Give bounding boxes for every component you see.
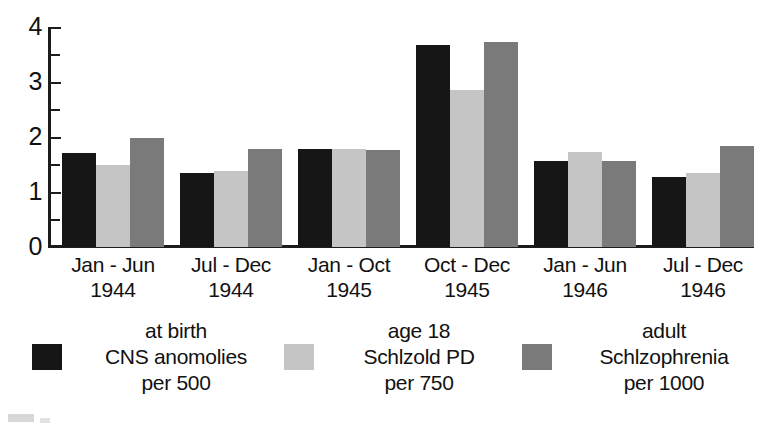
legend-line-3: per 500 — [76, 370, 276, 396]
legend-line-2: CNS anomolies — [76, 344, 276, 370]
bar — [720, 146, 754, 247]
bar — [416, 45, 450, 247]
scan-artifact — [8, 414, 34, 422]
bar — [534, 161, 568, 247]
legend-entry-label: at birth CNS anomolies per 500 — [76, 318, 276, 396]
x-axis-category-label: Jul - Dec1946 — [634, 252, 762, 302]
bar — [450, 90, 484, 247]
legend-entry-label: age 18 Schlzold PD per 750 — [324, 318, 514, 396]
legend-entry-label: adult Schlzophrenia per 1000 — [564, 318, 762, 396]
legend-swatch-icon — [522, 344, 552, 370]
legend-line-2: Schlzophrenia — [564, 344, 762, 370]
bar — [214, 171, 248, 247]
legend-entry: age 18 Schlzold PD per 750 — [262, 322, 512, 412]
bar — [298, 149, 332, 247]
scan-artifact — [40, 418, 50, 423]
legend-swatch-icon — [284, 344, 314, 370]
bar — [130, 138, 164, 247]
x-axis-category-labels: Jan - Jun1944Jul - Dec1944Jan - Oct1945O… — [0, 252, 762, 314]
legend-line-2: Schlzold PD — [324, 344, 514, 370]
legend-line-1: age 18 — [324, 318, 514, 344]
legend-line-1: adult — [564, 318, 762, 344]
bar — [484, 42, 518, 247]
bar — [248, 149, 282, 247]
legend-entry: adult Schlzophrenia per 1000 — [508, 322, 762, 412]
category-year: 1946 — [634, 277, 762, 302]
bar — [568, 152, 602, 247]
plot-area: 4 3 2 1 0 — [0, 0, 762, 250]
legend-swatch-icon — [32, 344, 62, 370]
category-range: Jul - Dec — [634, 252, 762, 277]
bar — [62, 153, 96, 247]
legend-line-3: per 1000 — [564, 370, 762, 396]
bar-chart-figure: 4 3 2 1 0 Jan - Jun1944Jul - Dec1944Jan … — [0, 0, 762, 429]
legend-line-3: per 750 — [324, 370, 514, 396]
chart-legend: at birth CNS anomolies per 500 age 18 Sc… — [0, 322, 762, 417]
bar — [602, 161, 636, 247]
bar — [366, 150, 400, 247]
bar — [180, 173, 214, 247]
bar — [96, 165, 130, 247]
legend-entry: at birth CNS anomolies per 500 — [10, 322, 260, 412]
bar — [652, 177, 686, 247]
bar — [686, 173, 720, 247]
legend-line-1: at birth — [76, 318, 276, 344]
bar — [332, 149, 366, 247]
bars-layer — [0, 0, 762, 250]
